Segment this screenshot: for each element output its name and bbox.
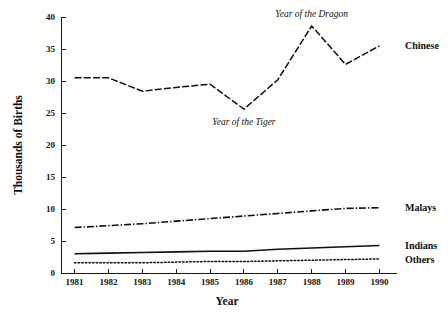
x-tick-label: 1985 (201, 277, 220, 287)
y-tick-label: 40 (46, 12, 56, 22)
y-axis-title: Thousands of Births (12, 95, 24, 195)
series-labels: Chinese Malays Indians Others (405, 40, 439, 265)
y-tick-label: 20 (46, 140, 56, 150)
series-line-others (75, 259, 380, 263)
y-tick-label: 30 (46, 76, 56, 86)
series-label-chinese: Chinese (405, 40, 439, 51)
x-axis-title: Year (216, 295, 239, 307)
y-tick-label: 5 (51, 236, 56, 246)
x-tick-label: 1990 (370, 277, 389, 287)
x-tick-label: 1989 (337, 277, 356, 287)
x-tick-label: 1987 (269, 277, 288, 287)
axes (61, 17, 397, 273)
chart-canvas: 0510152025303540 19811982198319841985198… (0, 0, 448, 314)
x-tick-label: 1984 (167, 277, 186, 287)
series-label-malays: Malays (405, 202, 436, 213)
y-tick-label: 15 (46, 172, 56, 182)
y-axis-ticks (61, 17, 66, 273)
y-axis-tick-labels: 0510152025303540 (46, 12, 56, 278)
x-tick-label: 1983 (133, 277, 152, 287)
y-tick-label: 0 (51, 268, 56, 278)
x-tick-label: 1981 (66, 277, 85, 287)
chart-page: 0510152025303540 19811982198319841985198… (0, 0, 448, 314)
annotation-year-of-the-dragon: Year of the Dragon (275, 9, 348, 19)
x-tick-label: 1988 (303, 277, 322, 287)
x-tick-label: 1982 (99, 277, 118, 287)
x-tick-label: 1986 (235, 277, 254, 287)
series-line-malays (75, 208, 380, 228)
y-tick-label: 25 (46, 108, 56, 118)
series-line-chinese (75, 26, 380, 109)
series-label-indians: Indians (405, 240, 437, 251)
series-line-indians (75, 245, 380, 253)
chart-annotations: Year of the Dragon Year of the Tiger (212, 9, 348, 127)
series-label-others: Others (405, 254, 435, 265)
x-axis-ticks (75, 269, 380, 274)
y-tick-label: 10 (46, 204, 56, 214)
x-axis-tick-labels: 1981198219831984198519861987198819891990 (66, 277, 389, 287)
y-tick-label: 35 (46, 44, 56, 54)
line-chart-figure: 0510152025303540 19811982198319841985198… (0, 0, 448, 314)
data-series-group (75, 26, 380, 263)
annotation-year-of-the-tiger: Year of the Tiger (212, 117, 276, 127)
